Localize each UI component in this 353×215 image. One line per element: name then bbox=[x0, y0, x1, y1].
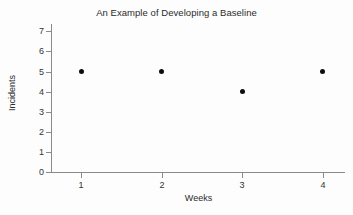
y-axis-tick-label: 6 bbox=[22, 47, 44, 56]
x-axis-tick-mark bbox=[323, 173, 324, 178]
x-axis-tick-mark bbox=[242, 173, 243, 178]
y-axis-tick-label: 5 bbox=[22, 68, 44, 77]
y-axis-tick-label: 1 bbox=[22, 148, 44, 157]
data-point bbox=[240, 89, 245, 94]
data-point bbox=[79, 69, 84, 74]
y-axis-tick-mark bbox=[46, 172, 51, 173]
y-axis-line bbox=[51, 24, 52, 173]
y-axis-tick-label: 3 bbox=[22, 108, 44, 117]
y-axis-title: Incidents bbox=[7, 63, 17, 123]
y-axis-tick-mark bbox=[46, 72, 51, 73]
x-axis-title: Weeks bbox=[52, 193, 345, 203]
y-axis-tick-mark bbox=[46, 132, 51, 133]
x-axis-tick-mark bbox=[162, 173, 163, 178]
y-axis-tick-label: 4 bbox=[22, 88, 44, 97]
x-axis-tick-label: 4 bbox=[311, 180, 335, 190]
x-axis-tick-label: 1 bbox=[69, 180, 93, 190]
x-axis-tick-label: 3 bbox=[230, 180, 254, 190]
y-axis-tick-mark bbox=[46, 31, 51, 32]
y-axis-tick-mark bbox=[46, 51, 51, 52]
chart-title: An Example of Developing a Baseline bbox=[0, 7, 353, 18]
x-axis-tick-label: 2 bbox=[150, 180, 174, 190]
data-point bbox=[320, 69, 325, 74]
x-axis-tick-mark bbox=[81, 173, 82, 178]
x-axis-line bbox=[52, 172, 345, 173]
y-axis-tick-mark bbox=[46, 92, 51, 93]
y-axis-tick-label: 7 bbox=[22, 27, 44, 36]
data-point bbox=[159, 69, 164, 74]
y-axis-tick-label: 2 bbox=[22, 128, 44, 137]
y-axis-tick-mark bbox=[46, 112, 51, 113]
chart-container: An Example of Developing a Baseline 7 6 … bbox=[0, 0, 353, 215]
y-axis-tick-mark bbox=[46, 152, 51, 153]
y-axis-tick-label: 0 bbox=[22, 168, 44, 177]
